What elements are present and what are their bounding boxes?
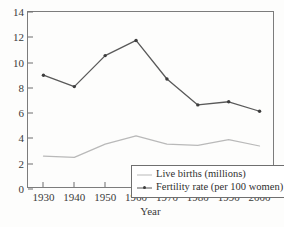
y-tick-label: 14 bbox=[13, 7, 24, 18]
y-tick-label: 12 bbox=[13, 32, 24, 43]
legend-key-fertility-rate-icon bbox=[136, 182, 153, 193]
figure-canvas: 02468101214 1930194019501960197019801990… bbox=[0, 0, 284, 227]
legend-label-live-births: Live births (millions) bbox=[156, 169, 246, 180]
legend-key-live-births-icon bbox=[136, 169, 153, 180]
chart-legend: Live births (millions) Fertility rate (p… bbox=[131, 165, 284, 198]
y-tick-label: 4 bbox=[19, 133, 25, 144]
series-line bbox=[43, 136, 259, 157]
plot-area: 02468101214 1930194019501960197019801990… bbox=[27, 11, 274, 188]
series-data-point bbox=[42, 74, 45, 77]
legend-item-fertility-rate: Fertility rate (per 100 women) bbox=[136, 181, 284, 194]
series-data-point bbox=[73, 85, 76, 88]
x-tick-label: 1950 bbox=[94, 192, 116, 203]
series-data-point bbox=[196, 103, 199, 106]
series-data-point bbox=[258, 110, 261, 113]
data-series-layer bbox=[28, 12, 275, 189]
x-tick-label: 1930 bbox=[32, 192, 54, 203]
series-data-point bbox=[134, 39, 137, 42]
x-tick-label: 1940 bbox=[63, 192, 85, 203]
y-tick-label: 8 bbox=[19, 82, 25, 93]
legend-label-fertility-rate: Fertility rate (per 100 women) bbox=[156, 182, 283, 193]
y-tick-label: 0 bbox=[19, 184, 25, 195]
series-data-point bbox=[103, 54, 106, 57]
x-axis-title: Year bbox=[27, 205, 274, 217]
y-tick-label: 6 bbox=[19, 108, 25, 119]
y-tick-label: 10 bbox=[13, 57, 24, 68]
series-line bbox=[43, 40, 259, 111]
series-data-point bbox=[227, 100, 230, 103]
series-data-point bbox=[165, 77, 168, 80]
legend-item-live-births: Live births (millions) bbox=[136, 168, 284, 181]
y-tick-label: 2 bbox=[19, 158, 25, 169]
